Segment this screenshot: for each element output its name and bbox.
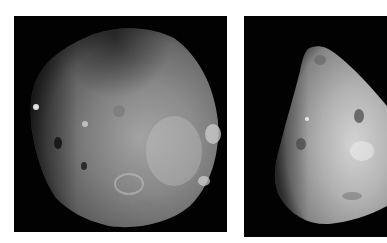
phobos-image	[14, 16, 227, 232]
deimos-illustration	[244, 16, 387, 237]
phobos-illustration	[14, 16, 227, 232]
deimos-image	[244, 16, 387, 237]
